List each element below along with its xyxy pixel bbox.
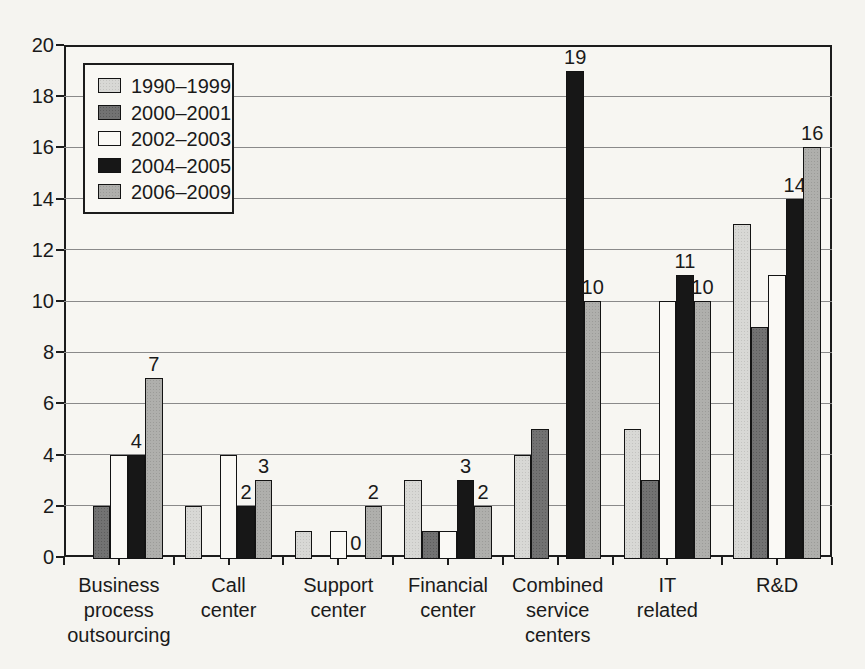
bar-2002-2003-financial-center [439, 531, 457, 559]
legend-item-label: 2006–2009 [131, 180, 231, 204]
bar-2004-2005-it-related [676, 275, 694, 559]
legend-swatch-icon [98, 184, 121, 199]
category-label-line: related [637, 598, 698, 623]
x-axis-tick [63, 557, 65, 565]
category-label: ITrelated [637, 573, 698, 623]
bar-2004-2005-business-process-outsourcing [128, 455, 146, 559]
y-axis-tick [56, 44, 64, 46]
x-axis-tick [502, 557, 504, 565]
x-axis-tick [392, 557, 394, 565]
y-axis-tick [56, 146, 64, 148]
y-axis-label: 4 [18, 444, 54, 466]
bar-2006-2009-r-d [803, 147, 821, 559]
bar-2002-2003-business-process-outsourcing [110, 455, 128, 559]
y-axis-label: 2 [18, 495, 54, 517]
bar-value-label: 11 [675, 250, 696, 272]
category-label: Supportcenter [303, 573, 373, 623]
y-axis-label: 8 [18, 341, 54, 363]
category-label-line: IT [637, 573, 698, 598]
y-axis-tick [56, 300, 64, 302]
gridline [64, 352, 832, 353]
legend-item: 1990–1999 [85, 73, 232, 99]
bar-1990-1999-call-center [185, 506, 203, 559]
bar-2006-2009-financial-center [474, 506, 492, 559]
x-axis-tick [612, 557, 614, 565]
category-label-line: Financial [408, 573, 488, 598]
bar-2000-2001-financial-center [422, 531, 440, 559]
legend-item-label: 2004–2005 [131, 154, 231, 178]
category-label-line: centers [512, 623, 603, 648]
y-axis-label: 10 [18, 290, 54, 312]
y-axis-label: 6 [18, 392, 54, 414]
bar-chart-figure: 0246810121416182047230232191011101416Bus… [0, 0, 865, 669]
legend-item: 2002–2003 [85, 126, 232, 152]
bar-2002-2003-r-d [768, 275, 786, 559]
legend-item-label: 2000–2001 [131, 101, 231, 125]
bar-2000-2001-combined-service-centers [531, 429, 549, 559]
bar-2006-2009-business-process-outsourcing [145, 378, 163, 559]
bar-1990-1999-financial-center [404, 480, 422, 559]
category-label-line: service [512, 598, 603, 623]
bar-2006-2009-it-related [694, 301, 712, 559]
y-axis-label: 14 [18, 188, 54, 210]
bar-value-label: 10 [582, 276, 604, 298]
bar-1990-1999-it-related [624, 429, 642, 559]
category-label-line: process [67, 598, 170, 623]
bar-2002-2003-support-center [330, 531, 348, 559]
bar-value-label: 2 [241, 481, 252, 503]
bar-2002-2003-it-related [659, 301, 677, 559]
bar-1990-1999-combined-service-centers [514, 455, 532, 559]
bar-1990-1999-support-center [295, 531, 313, 559]
bar-value-label: 0 [350, 532, 361, 554]
category-label-line: Business [67, 573, 170, 598]
category-label-line: center [303, 598, 373, 623]
y-axis-tick [56, 505, 64, 507]
bar-value-label: 16 [801, 122, 823, 144]
category-label-line: Call [201, 573, 257, 598]
category-label: Callcenter [201, 573, 257, 623]
legend-item-label: 1990–1999 [131, 74, 231, 98]
legend-swatch-icon [98, 158, 121, 173]
bar-1990-1999-r-d [733, 224, 751, 559]
category-label-line: Combined [512, 573, 603, 598]
bar-value-label: 3 [258, 455, 269, 477]
x-axis-tick [557, 557, 559, 565]
bar-2006-2009-support-center [365, 506, 383, 559]
category-label: Combinedservicecenters [512, 573, 603, 648]
category-label: R&D [756, 573, 798, 598]
bar-2004-2005-call-center [237, 506, 255, 559]
legend: 1990–19992000–20012002–20032004–20052006… [83, 63, 234, 214]
y-axis-label: 20 [18, 34, 54, 56]
bar-2002-2003-call-center [220, 455, 238, 559]
gridline [64, 301, 832, 302]
legend-item: 2006–2009 [85, 179, 232, 205]
category-label-line: outsourcing [67, 623, 170, 648]
bar-value-label: 2 [368, 481, 379, 503]
y-axis-tick [56, 198, 64, 200]
y-axis-label: 18 [18, 85, 54, 107]
bar-value-label: 19 [564, 46, 586, 68]
gridline [64, 403, 832, 404]
category-label-line: R&D [756, 573, 798, 598]
bar-2004-2005-r-d [786, 199, 804, 559]
legend-swatch-icon [98, 131, 121, 146]
category-label: Businessprocessoutsourcing [67, 573, 170, 648]
y-axis-label: 16 [18, 136, 54, 158]
x-axis-tick [282, 557, 284, 565]
legend-swatch-icon [98, 78, 121, 93]
gridline [64, 505, 832, 506]
bar-2004-2005-combined-service-centers [566, 71, 584, 559]
bar-2004-2005-financial-center [457, 480, 475, 559]
bar-2000-2001-it-related [641, 480, 659, 559]
bar-value-label: 10 [691, 276, 713, 298]
legend-swatch-icon [98, 105, 121, 120]
y-axis-tick [56, 402, 64, 404]
category-label-line: center [408, 598, 488, 623]
bar-value-label: 4 [131, 430, 142, 452]
gridline [64, 454, 832, 455]
bar-value-label: 7 [148, 353, 159, 375]
bar-2006-2009-call-center [255, 480, 273, 559]
bar-value-label: 2 [477, 481, 488, 503]
y-axis-tick [56, 249, 64, 251]
y-axis-label: 12 [18, 239, 54, 261]
